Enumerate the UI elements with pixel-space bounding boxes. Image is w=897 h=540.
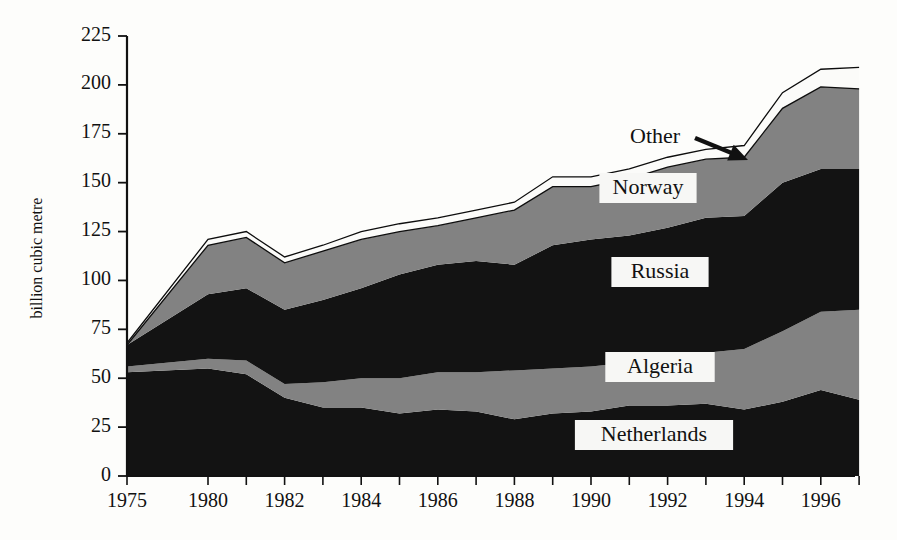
x-tick-label-1988: 1988 — [494, 489, 534, 511]
x-tick-label-1992: 1992 — [648, 489, 688, 511]
y-tick-label: 100 — [81, 267, 111, 289]
y-tick-label: 50 — [91, 365, 111, 387]
y-tick-label: 25 — [91, 414, 111, 436]
x-tick-label-1975: 1975 — [107, 489, 147, 511]
y-tick-label: 150 — [81, 169, 111, 191]
series-label-norway: Norway — [613, 174, 684, 199]
y-axis-title: billion cubic metre — [28, 198, 45, 319]
y-tick-label: 200 — [81, 71, 111, 93]
x-tick-label-1990: 1990 — [571, 489, 611, 511]
chart-root: 0255075100125150175200225 19751980198219… — [0, 0, 897, 540]
y-tick-label: 75 — [91, 316, 111, 338]
y-tick-label: 225 — [81, 23, 111, 45]
x-tick-label-1982: 1982 — [265, 489, 305, 511]
stacked-area-chart: 0255075100125150175200225 19751980198219… — [0, 0, 897, 540]
y-tick-label: 0 — [101, 463, 111, 485]
x-tick-label-1996: 1996 — [801, 489, 841, 511]
y-tick-label: 125 — [81, 218, 111, 240]
x-tick-label-1980: 1980 — [188, 489, 228, 511]
series-label-netherlands: Netherlands — [601, 421, 707, 446]
series-label-algeria: Algeria — [627, 353, 693, 378]
x-tick-label-1994: 1994 — [724, 489, 764, 511]
x-tick-label-1986: 1986 — [418, 489, 458, 511]
series-label-russia: Russia — [631, 258, 690, 283]
other-callout-label: Other — [630, 123, 681, 148]
x-tick-label-1984: 1984 — [341, 489, 381, 511]
y-tick-label: 175 — [81, 120, 111, 142]
